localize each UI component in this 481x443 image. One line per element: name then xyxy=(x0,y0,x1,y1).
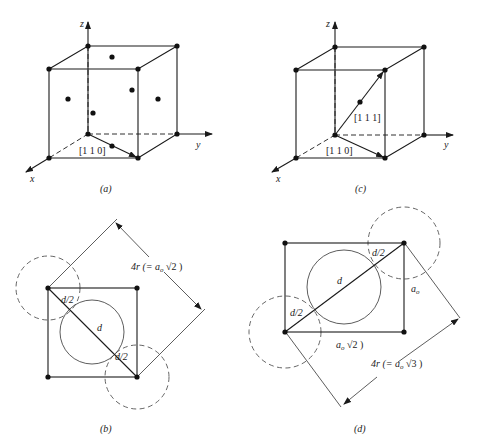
dimension-4r-label: 4r (= ao √3 ) xyxy=(371,358,422,371)
x-axis-label: x xyxy=(29,173,35,184)
label-d-half-bottom: d/2 xyxy=(115,351,128,362)
bottom-label-ao-root2: ao √2 ) xyxy=(336,339,363,352)
caption-a: (a) xyxy=(100,183,112,195)
panel-a-fcc-cube: z y x [1 1 0] (a) xyxy=(26,18,212,195)
direction-110-label: [1 1 0] xyxy=(326,145,353,156)
y-axis-label: y xyxy=(443,139,449,150)
x-axis xyxy=(272,158,296,172)
crystal-geometry-figure: z y x [1 1 0] (a) z y x [1 1 1] [1 1 0] … xyxy=(0,0,481,443)
direction-111-label: [1 1 1] xyxy=(354,112,381,123)
y-axis-label: y xyxy=(195,139,201,150)
dimension-4r-label: 4r (= ao √2 ) xyxy=(131,261,182,274)
body-diagonal xyxy=(285,243,404,332)
side-label-ao: ao xyxy=(411,283,420,296)
label-d-half-top: d/2 xyxy=(61,294,74,305)
label-d: d xyxy=(97,322,103,333)
z-axis-label: z xyxy=(325,18,330,29)
atoms xyxy=(46,43,179,160)
direction-110-label: [1 1 0] xyxy=(79,145,106,156)
z-axis-label: z xyxy=(79,18,84,29)
label-d-half-bottom: d/2 xyxy=(290,307,303,318)
caption-b: (b) xyxy=(100,423,112,435)
panel-b-face-section: d/2 d d/2 4r (= ao √2 ) (b) xyxy=(16,219,205,435)
atoms xyxy=(293,44,426,160)
label-d-half-top: d/2 xyxy=(372,247,385,258)
center-atom xyxy=(307,250,381,324)
x-axis-label: x xyxy=(275,173,281,184)
label-d: d xyxy=(337,275,343,286)
panel-d-diagonal-section: d/2 d d/2 ao ao √2 ) 4r (= ao √3 ) (d) xyxy=(249,207,460,435)
caption-d: (d) xyxy=(354,423,366,435)
caption-c: (c) xyxy=(355,183,367,195)
x-axis xyxy=(26,158,49,172)
panel-c-bcc-cube: z y x [1 1 1] [1 1 0] (c) xyxy=(272,18,453,195)
